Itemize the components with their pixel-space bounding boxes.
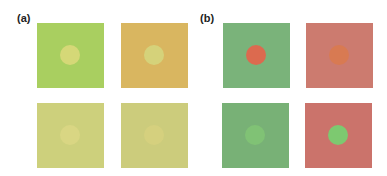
- square-a-top-right: [121, 23, 188, 88]
- circle-a-top-right: [144, 45, 164, 65]
- circle-a-bottom-left: [60, 125, 80, 145]
- square-b-top-right: [306, 23, 373, 88]
- circle-b-bottom-right: [328, 125, 348, 145]
- circle-b-bottom-left: [245, 125, 265, 145]
- square-a-bottom-right: [121, 103, 188, 168]
- square-b-bottom-left: [222, 103, 289, 168]
- circle-b-top-right: [329, 45, 349, 65]
- panel-a-label: (a): [17, 12, 30, 24]
- square-b-bottom-right: [305, 103, 372, 168]
- circle-a-top-left: [60, 45, 80, 65]
- square-a-top-left: [37, 23, 104, 88]
- square-b-top-left: [223, 23, 290, 88]
- circle-b-top-left: [246, 45, 266, 65]
- circle-a-bottom-right: [144, 125, 164, 145]
- square-a-bottom-left: [37, 103, 104, 168]
- panel-b-label: (b): [200, 12, 214, 24]
